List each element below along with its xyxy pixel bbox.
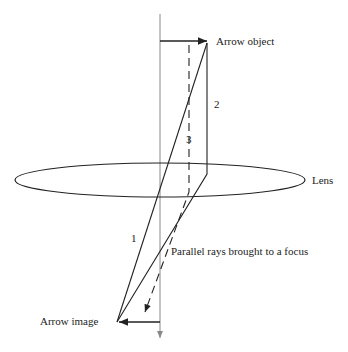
ray-diagram: Arrow object 2 3 Lens 1 Parallel rays br… [0,0,348,352]
label-lens: Lens [312,174,333,186]
label-arrow-image: Arrow image [40,315,98,327]
ray-3-dashed [145,45,189,312]
label-ray-1: 1 [131,232,137,244]
label-ray-3: 3 [186,133,192,145]
label-focus-note: Parallel rays brought to a focus [171,245,308,257]
ray-1 [117,43,207,322]
label-arrow-object: Arrow object [216,35,274,47]
label-ray-2: 2 [214,98,220,110]
